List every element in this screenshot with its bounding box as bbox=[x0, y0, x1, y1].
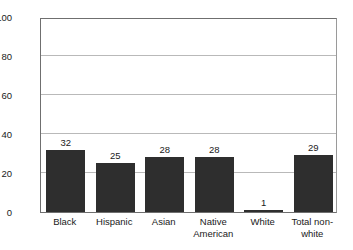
bar-chart-figure: 020406080100 32252828129 BlackHispanicAs… bbox=[0, 0, 353, 250]
bar-black bbox=[46, 150, 85, 212]
bar-group: 25 bbox=[96, 19, 135, 212]
bar-native-american bbox=[195, 157, 234, 212]
bar-asian bbox=[145, 157, 184, 212]
x-label-line: American bbox=[183, 228, 245, 240]
y-tick-label-0: 0 bbox=[0, 208, 12, 218]
plot-area: 32252828129 bbox=[40, 18, 337, 213]
x-label-line: Total non- bbox=[282, 216, 344, 228]
y-tick-label-60: 60 bbox=[0, 91, 12, 101]
y-tick-label-100: 100 bbox=[0, 13, 12, 23]
y-tick-label-40: 40 bbox=[0, 130, 12, 140]
y-tick-label-80: 80 bbox=[0, 52, 12, 62]
bar-hispanic bbox=[96, 163, 135, 212]
bar-group: 29 bbox=[294, 19, 333, 212]
bar-value-label: 28 bbox=[183, 145, 246, 155]
bar-group: 32 bbox=[46, 19, 85, 212]
bar-group: 28 bbox=[195, 19, 234, 212]
bar-value-label: 1 bbox=[232, 198, 295, 208]
x-label-line: white bbox=[282, 228, 344, 240]
x-label-total-non-white: Total non-white bbox=[282, 216, 344, 239]
y-tick-label-20: 20 bbox=[0, 169, 12, 179]
gridline-100 bbox=[41, 16, 336, 17]
bar-value-label: 32 bbox=[34, 138, 97, 148]
bar-white bbox=[244, 210, 283, 212]
bars-layer: 32252828129 bbox=[41, 19, 336, 212]
bar-value-label: 29 bbox=[282, 143, 345, 153]
x-axis-category-labels: BlackHispanicAsianNativeAmericanWhiteTot… bbox=[40, 216, 337, 250]
bar-group: 1 bbox=[244, 19, 283, 212]
bar-group: 28 bbox=[145, 19, 184, 212]
bar-total-non-white bbox=[294, 155, 333, 212]
